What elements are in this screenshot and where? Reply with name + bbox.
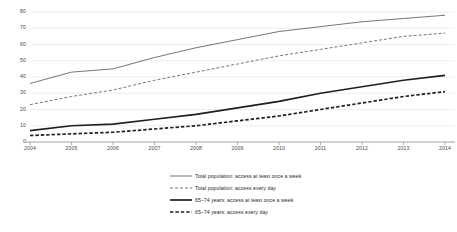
legend-line-swatch [170,184,192,192]
series-line-4 [30,92,445,136]
x-tick-label: 2007 [149,146,161,151]
y-tick-label: 70 [0,26,26,31]
legend-item[interactable]: 65–74 years: access every day [170,206,420,218]
plot-area [30,12,445,142]
plot-svg [30,12,445,142]
x-tick-label: 2006 [107,146,119,151]
gridlines [30,12,455,142]
y-tick-label: 20 [0,107,26,112]
x-tick-label: 2013 [398,146,410,151]
legend-item[interactable]: 65–74 years: access at least once a week [170,194,420,206]
x-tick-label: 2009 [232,146,244,151]
x-tick-label: 2014 [439,146,451,151]
legend-item-label: 65–74 years: access at least once a week [195,197,293,203]
legend-item-label: 65–74 years: access every day [195,209,268,215]
y-tick-label: 50 [0,58,26,63]
legend-item[interactable]: Total population: access every day [170,182,420,194]
line-chart-figure: 01020304050607080 2004200520062007200820… [0,0,457,232]
x-tick-label: 2012 [356,146,368,151]
x-tick-label: 2010 [273,146,285,151]
x-tick-label: 2008 [190,146,202,151]
y-tick-label: 60 [0,42,26,47]
legend-item-label: Total population: access at least once a… [195,173,301,179]
y-axis: 01020304050607080 [0,12,26,142]
x-axis: 2004200520062007200820092010201120122013… [30,146,445,156]
x-tick-label: 2011 [315,146,327,151]
series-lines [30,15,445,135]
y-tick-label: 30 [0,91,26,96]
y-tick-label: 80 [0,9,26,14]
legend-line-swatch [170,208,192,216]
legend-line-swatch [170,172,192,180]
legend-item[interactable]: Total population: access at least once a… [170,170,420,182]
chart-legend: Total population: access at least once a… [170,170,420,218]
y-tick-label: 0 [0,139,26,144]
x-tick-label: 2005 [66,146,78,151]
series-line-2 [30,33,445,105]
legend-item-label: Total population: access every day [195,185,276,191]
x-tick-label: 2004 [24,146,36,151]
y-tick-label: 40 [0,74,26,79]
series-line-1 [30,15,445,83]
series-line-3 [30,75,445,130]
legend-line-swatch [170,196,192,204]
y-tick-label: 10 [0,123,26,128]
